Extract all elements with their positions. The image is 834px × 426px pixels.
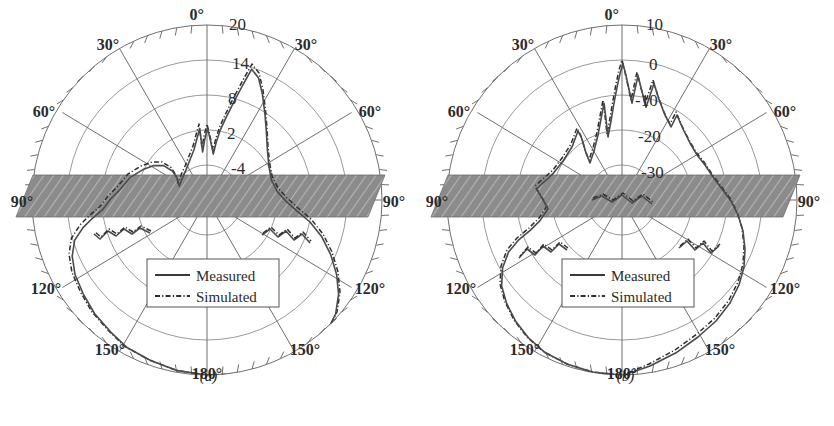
angle-label-b-90R: 90° [798, 193, 820, 210]
angle-label-b-150L: 150° [510, 341, 540, 358]
angle-label-a-120L: 120° [31, 280, 61, 297]
subfigure-caption-a: (a) [0, 368, 417, 385]
angle-label-b-120L: 120° [446, 280, 476, 297]
legend-label-simulated-a: Simulated [196, 289, 257, 305]
radial-label-b-4: -30 [641, 163, 664, 182]
subfigure-caption-b: (b) [417, 368, 834, 385]
panel-a: 20 14 8 2 -4 0° 30° 30° 60° 60° 90° 90° … [0, 0, 417, 426]
angle-label-a-150L: 150° [95, 341, 125, 358]
legend-label-measured-b: Measured [611, 268, 671, 284]
radial-label-b-2: -10 [635, 91, 658, 110]
angle-label-a-120R: 120° [355, 280, 385, 297]
radial-axis-labels-a: 20 14 8 2 -4 [227, 15, 250, 178]
angle-label-b-150R: 150° [705, 341, 735, 358]
angle-label-a-90R: 90° [383, 193, 405, 210]
angle-label-a-30R: 30° [295, 36, 317, 53]
pattern-traces-a [69, 64, 340, 375]
panel-b: 10 0 -10 -20 -30 0° 30° 30° 60° 60° 90° … [417, 0, 834, 426]
radial-label-a-4: -4 [231, 159, 246, 178]
angle-label-a-30L: 30° [97, 36, 119, 53]
polar-plot-a: 20 14 8 2 -4 0° 30° 30° 60° 60° 90° 90° … [0, 0, 417, 400]
radial-label-a-0: 20 [229, 15, 246, 34]
radial-label-b-0: 10 [646, 15, 663, 34]
legend-label-measured-a: Measured [196, 268, 256, 284]
polar-plot-b: 10 0 -10 -20 -30 0° 30° 30° 60° 60° 90° … [417, 0, 834, 400]
legend-b: Measured Simulated [562, 259, 694, 307]
legend-a: Measured Simulated [147, 259, 279, 307]
radial-label-b-1: 0 [649, 55, 658, 74]
angle-label-a-90L: 90° [11, 193, 33, 210]
radial-label-a-3: 2 [227, 124, 236, 143]
radial-label-b-3: -20 [638, 127, 661, 146]
angle-label-b-0: 0° [605, 6, 619, 23]
polar-radiation-pattern-figure: 20 14 8 2 -4 0° 30° 30° 60° 60° 90° 90° … [0, 0, 834, 426]
polar-chart-a-svg: 20 14 8 2 -4 0° 30° 30° 60° 60° 90° 90° … [0, 0, 417, 400]
radial-label-a-1: 14 [232, 54, 250, 73]
legend-label-simulated-b: Simulated [611, 289, 672, 305]
radial-label-a-2: 8 [228, 89, 237, 108]
trace-simulated-a [69, 64, 340, 375]
angle-label-a-60R: 60° [359, 103, 381, 120]
angle-label-b-60L: 60° [448, 103, 470, 120]
trace-measured-a [72, 69, 338, 375]
angle-label-b-90L: 90° [426, 193, 448, 210]
angle-label-a-0: 0° [190, 6, 204, 23]
angle-label-b-120R: 120° [770, 280, 800, 297]
angle-label-b-30R: 30° [710, 36, 732, 53]
figure-footnote [0, 416, 834, 426]
ground-plane-band-b [431, 175, 800, 217]
angle-label-a-60L: 60° [33, 103, 55, 120]
trace-measured-b [502, 64, 745, 375]
ground-plane-band-a [16, 175, 385, 217]
angle-label-a-150R: 150° [290, 341, 320, 358]
polar-chart-b-svg: 10 0 -10 -20 -30 0° 30° 30° 60° 60° 90° … [417, 0, 834, 400]
angle-label-b-30L: 30° [512, 36, 534, 53]
angle-label-b-60R: 60° [774, 103, 796, 120]
